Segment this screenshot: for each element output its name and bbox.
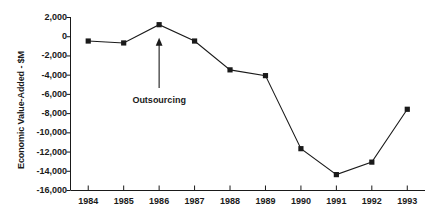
annotation-arrow-head [156,38,163,46]
data-point-marker [405,107,410,112]
data-point-marker [157,22,162,27]
data-point-marker [227,67,232,72]
data-point-marker [121,40,126,45]
data-point-marker [334,172,339,177]
data-point-marker [369,160,374,165]
data-point-marker [192,38,197,43]
data-point-marker [298,146,303,151]
outsourcing-annotation-arrow [156,38,163,88]
data-point-marker [263,73,268,78]
y-axis-ticks [67,18,71,191]
annotation-label-outsourcing: Outsourcing [132,96,186,105]
data-point-marker [86,38,91,43]
x-axis-ticks [88,186,407,191]
economic-value-added-line-chart: Economic Value-Added - $M 2,0000-2,000-4… [0,0,433,220]
plot-area [0,0,433,220]
